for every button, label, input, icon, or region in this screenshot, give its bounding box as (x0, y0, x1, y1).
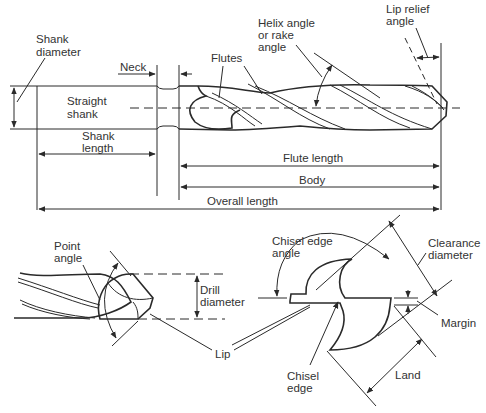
flute-length-dimension: Flute length (181, 152, 439, 166)
fluted-body (179, 84, 447, 130)
point-view: Point angle Drill diameter Lip (14, 240, 310, 360)
overall-length-label: Overall length (207, 195, 278, 207)
clearance-diameter-label-2: diameter (428, 249, 473, 261)
neck-label: Neck (120, 61, 146, 73)
helix-angle-label: Helix angle (258, 17, 315, 29)
helix-angle-label-2: or rake (258, 29, 294, 41)
chisel-edge-angle-label: Chisel edge (272, 235, 333, 247)
end-view: Chisel edge angle Clearance diameter Mar… (232, 215, 480, 406)
shank-diameter-label-2: diameter (36, 46, 81, 58)
lip-label: Lip (215, 348, 230, 360)
shank-diameter-label: Shank (36, 33, 69, 45)
chisel-edge-angle-label-2: angle (272, 247, 300, 259)
shank-length-label: Shank (82, 130, 115, 142)
overall-length-dimension: Overall length (39, 195, 439, 209)
drill-diameter-label: Drill (200, 284, 220, 296)
chisel-edge-label: Chisel (287, 370, 319, 382)
point-angle-label-2: angle (54, 252, 82, 264)
straight-shank-label: Straight (67, 95, 107, 107)
margin-label: Margin (441, 317, 476, 329)
twist-drill-diagram: Shank diameter Neck Straight shank Fl (0, 0, 486, 413)
helix-angle-dimension: Helix angle or rake angle (258, 17, 380, 106)
body-label: Body (299, 174, 325, 186)
shank-length-dimension: Shank length (39, 130, 155, 154)
lip-relief-label: Lip relief (386, 3, 430, 15)
neck-dimension: Neck (118, 61, 192, 74)
lip-relief-label-2: angle (386, 15, 414, 27)
lip-relief-angle-dimension: Lip relief angle (386, 3, 441, 210)
flutes-label: Flutes (211, 52, 243, 64)
clearance-diameter-label: Clearance (428, 237, 480, 249)
point-angle-label: Point (54, 240, 81, 252)
land-label: Land (395, 369, 421, 381)
drill-diameter-label-2: diameter (200, 296, 245, 308)
body-dimension: Body (181, 174, 439, 187)
shank-length-label-2: length (82, 142, 113, 154)
straight-shank-label-2: shank (67, 108, 98, 120)
side-view: Shank diameter Neck Straight shank Fl (10, 3, 460, 210)
helix-angle-label-3: angle (258, 41, 286, 53)
flute-length-label: Flute length (283, 152, 343, 164)
chisel-edge-label-2: edge (287, 382, 313, 394)
